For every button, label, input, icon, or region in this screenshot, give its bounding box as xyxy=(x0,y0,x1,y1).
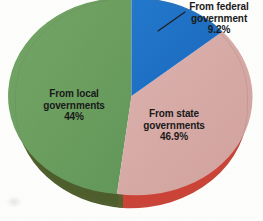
pie-label-state-line1: From state xyxy=(149,108,199,119)
pie-label-state: From state governments 46.9% xyxy=(122,108,226,143)
pie-label-local: From local governments 44% xyxy=(22,88,126,123)
pie-label-local-line1: From local xyxy=(49,88,99,99)
pie-label-federal-line2: government xyxy=(191,13,247,24)
pie-label-state-line2: governments xyxy=(143,120,205,131)
pie-chart-figure: From local governments 44% From state go… xyxy=(0,0,263,221)
pie-label-federal-line1: From federal xyxy=(189,1,248,12)
pie-label-federal-value: 9.2% xyxy=(176,24,262,36)
pie-label-federal: From federal government 9.2% xyxy=(176,1,262,36)
pie-label-state-value: 46.9% xyxy=(122,131,226,143)
pie-label-local-line2: governments xyxy=(43,100,105,111)
pie-label-local-value: 44% xyxy=(22,111,126,123)
